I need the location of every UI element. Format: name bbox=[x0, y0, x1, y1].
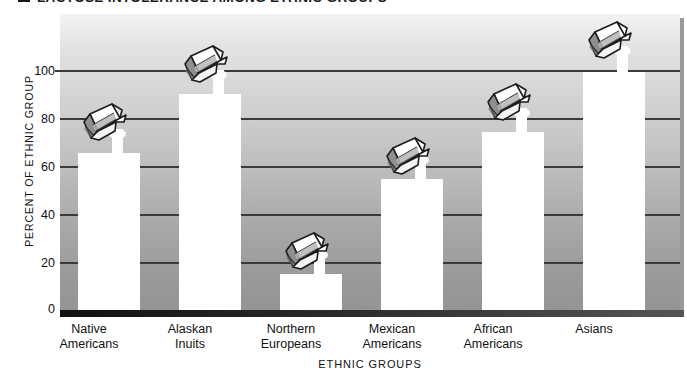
y-tick-label-80: 80 bbox=[21, 112, 55, 126]
x-tick-label-asians: Asians bbox=[534, 322, 654, 337]
bar-alaskan-inuits bbox=[179, 94, 241, 310]
y-tick-label-40: 40 bbox=[21, 208, 55, 222]
x-label-line-1: Asians bbox=[534, 322, 654, 337]
y-tick-label-0: 0 bbox=[21, 302, 55, 316]
y-tick-label-100: 100 bbox=[21, 64, 55, 78]
milk-carton-icon bbox=[82, 100, 128, 142]
y-tick-label-20: 20 bbox=[21, 256, 55, 270]
y-tick-mark-100 bbox=[55, 70, 62, 72]
x-axis-title: ETHNIC GROUPS bbox=[60, 358, 680, 370]
milk-carton-icon bbox=[183, 42, 229, 84]
x-label-line-2: Americans bbox=[433, 337, 553, 352]
x-axis-baseline bbox=[60, 310, 684, 317]
bar-series bbox=[60, 14, 680, 310]
milk-carton-icon bbox=[587, 18, 633, 60]
milk-carton-icon bbox=[486, 80, 532, 122]
bar-northern-europeans bbox=[280, 274, 342, 310]
bar-african-americans bbox=[482, 132, 544, 310]
milk-carton-icon bbox=[284, 229, 330, 271]
bar-chart-figure: PERCENT OF ETHNIC GROUP 100 80 60 40 20 … bbox=[0, 0, 687, 382]
bar-mexican-americans bbox=[381, 179, 443, 310]
milk-carton-icon bbox=[385, 134, 431, 176]
y-tick-label-60: 60 bbox=[21, 160, 55, 174]
bar-asians bbox=[583, 72, 645, 310]
bar-native-americans bbox=[78, 153, 140, 310]
